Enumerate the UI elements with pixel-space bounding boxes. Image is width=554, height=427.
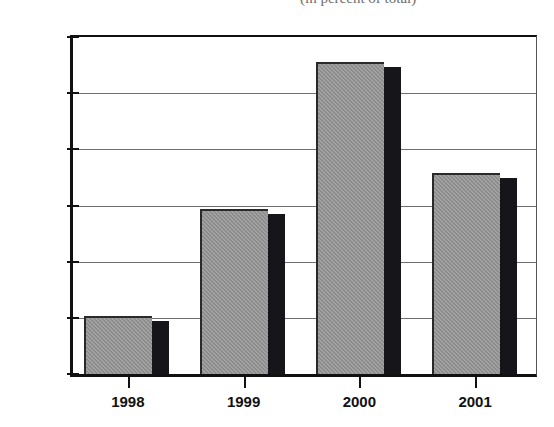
bar-1998 [84, 316, 169, 374]
x-axis-tick [244, 374, 246, 388]
x-axis-label-2000: 2000 [309, 394, 409, 410]
bar-face [84, 316, 152, 374]
y-axis-tick [67, 317, 79, 319]
bar-face [316, 62, 384, 374]
chart-title: (in percent of total) [300, 0, 544, 9]
x-axis-tick [475, 374, 477, 388]
x-axis-label-2001: 2001 [425, 394, 525, 410]
x-axis-tick [359, 374, 361, 388]
plot-area: 02004006008001,0001,200 [70, 35, 537, 377]
bar-side-panel [384, 67, 401, 374]
y-axis-tick [67, 205, 79, 207]
bar-face [200, 209, 268, 374]
y-axis-tick [67, 92, 79, 94]
bar-2001 [432, 173, 517, 374]
y-axis-tick [67, 148, 79, 150]
bar-side-panel [500, 178, 517, 374]
y-axis-tick [67, 36, 79, 38]
x-axis-tick [128, 374, 130, 388]
chart-title-text: (in percent of total) [300, 0, 544, 9]
y-axis-tick [67, 261, 79, 263]
x-axis-label-1998: 1998 [78, 394, 178, 410]
x-axis-label-1999: 1999 [194, 394, 294, 410]
bar-chart-figure: (in percent of total) 02004006008001,000… [0, 0, 554, 427]
bar-face [432, 173, 500, 374]
gridline [73, 93, 536, 94]
y-axis-tick [67, 373, 79, 375]
bar-side-panel [152, 321, 169, 374]
bar-1999 [200, 209, 285, 374]
bar-side-panel [268, 214, 285, 374]
bar-2000 [316, 62, 401, 374]
gridline [73, 149, 536, 150]
